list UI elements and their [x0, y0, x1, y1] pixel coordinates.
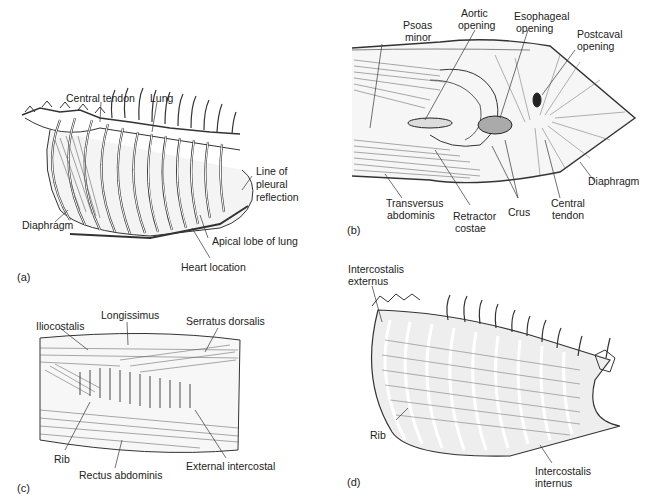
label-serratus-dorsalis: Serratus dorsalis: [186, 315, 265, 327]
panel-d-intercostal-muscles: Intercostalis externus Rib Intercostalis…: [330, 260, 654, 503]
label-postcaval-opening-2: opening: [577, 40, 614, 52]
label-line-of-pleural-reflection-1: Line of: [256, 165, 288, 177]
panel-c-trunk-muscles: Iliocostalis Longissimus Serratus dorsal…: [0, 300, 330, 503]
label-central-tendon: Central tendon: [66, 92, 135, 104]
label-rib-c: Rib: [54, 453, 70, 465]
label-external-intercostal: External intercostal: [186, 460, 275, 472]
label-diaphragm: Diaphragm: [22, 219, 73, 231]
panel-a-tag: (a): [17, 271, 30, 283]
label-central-tendon-b-2: tendon: [552, 209, 584, 221]
label-transversus-abdominis-2: abdominis: [387, 209, 435, 221]
label-postcaval-opening-1: Postcaval: [577, 28, 623, 40]
label-retractor-costae-2: costae: [455, 222, 486, 234]
label-aortic-opening-1: Aortic: [461, 7, 488, 19]
label-rectus-abdominis: Rectus abdominis: [79, 469, 162, 481]
panel-d-tag: (d): [347, 476, 360, 488]
ribcage-intercostal-illustration: [330, 260, 654, 503]
label-aortic-opening-2: opening: [458, 19, 495, 31]
label-psoas-minor-1: Psoas: [403, 19, 432, 31]
label-intercostalis-internus-2: internus: [535, 477, 572, 489]
label-intercostalis-externus-1: Intercostalis: [348, 263, 404, 275]
panel-b-diaphragm: Psoas minor Aortic opening Esophageal op…: [330, 0, 654, 250]
label-line-of-pleural-reflection-3: reflection: [256, 191, 299, 203]
label-esophageal-opening-1: Esophageal: [514, 10, 569, 22]
label-line-of-pleural-reflection-2: pleural: [256, 178, 288, 190]
label-lung: Lung: [150, 92, 173, 104]
label-esophageal-opening-2: opening: [516, 22, 553, 34]
label-apical-lobe-of-lung: Apical lobe of lung: [212, 235, 298, 247]
label-diaphragm-b: Diaphragm: [588, 175, 639, 187]
panel-b-tag: (b): [347, 224, 360, 236]
label-intercostalis-externus-2: externus: [348, 275, 388, 287]
label-retractor-costae-1: Retractor: [453, 210, 496, 222]
label-iliocostalis: Iliocostalis: [36, 320, 84, 332]
label-longissimus: Longissimus: [101, 309, 159, 321]
label-central-tendon-b-1: Central: [551, 197, 585, 209]
label-crus: Crus: [508, 206, 530, 218]
label-intercostalis-internus-1: Intercostalis: [535, 465, 591, 477]
label-heart-location: Heart location: [181, 261, 246, 273]
label-rib-d: Rib: [370, 429, 386, 441]
label-transversus-abdominis-1: Transversus: [386, 197, 443, 209]
label-psoas-minor-2: minor: [405, 31, 431, 43]
panel-c-tag: (c): [17, 482, 30, 494]
panel-a-thorax-lateral: Central tendon Lung Line of pleural refl…: [0, 0, 327, 290]
